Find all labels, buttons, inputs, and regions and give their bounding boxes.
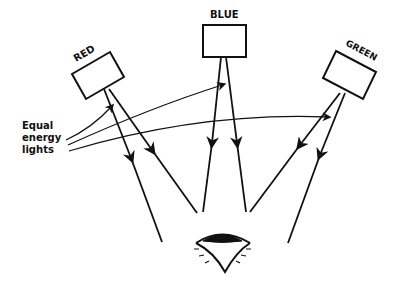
red-light-box: RED <box>72 43 125 99</box>
blue-light-box: BLUE <box>203 9 246 57</box>
diagram-canvas: RED BLUE GREEN <box>0 0 393 282</box>
eye-icon <box>194 235 251 273</box>
side-label-line-2: energy <box>22 132 61 144</box>
red-rays <box>104 89 197 242</box>
side-label-line-1: Equal <box>22 120 61 132</box>
blue-label: BLUE <box>210 9 239 20</box>
green-rays <box>250 93 345 243</box>
blue-rays <box>203 57 246 212</box>
side-label-line-3: lights <box>22 144 61 156</box>
green-light-box: GREEN <box>323 38 379 99</box>
equal-energy-light-curves <box>66 85 327 151</box>
equal-energy-lights-label: Equal energy lights <box>22 120 61 156</box>
red-label: RED <box>72 43 97 64</box>
